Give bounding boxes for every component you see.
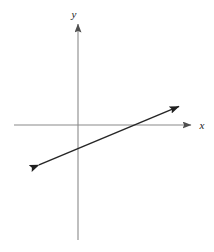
x-axis-label: x [199, 119, 205, 131]
figure-canvas: y x [0, 0, 214, 252]
coordinate-plane-svg: y x [0, 0, 214, 252]
y-axis-label: y [71, 8, 77, 20]
plot-background [0, 0, 214, 252]
